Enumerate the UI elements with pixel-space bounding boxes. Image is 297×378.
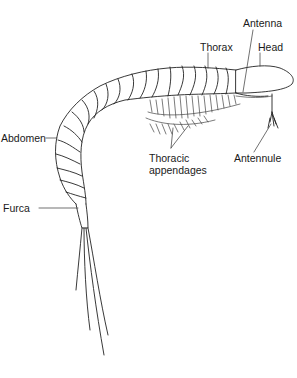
antenna-leader: [243, 30, 253, 92]
thoracic-appendages-leader-2: [171, 126, 188, 148]
antennule-shape: [268, 94, 278, 128]
label-antennule: Antennule: [234, 152, 281, 164]
antennule-leader: [254, 124, 271, 152]
head-shape: [236, 66, 293, 93]
label-thoracic-appendages: Thoracic appendages: [149, 152, 207, 176]
thoracic-appendages-leader-1: [171, 128, 173, 148]
furca-shape: [76, 204, 88, 228]
anatomy-diagram: Antenna Thorax Head Abdomen Thoracic app…: [0, 0, 297, 378]
thoracic-appendages-shape: [146, 95, 272, 134]
label-thorax: Thorax: [200, 41, 233, 53]
body-ventral-edge: [81, 93, 236, 204]
label-furca: Furca: [3, 202, 30, 214]
label-abdomen: Abdomen: [1, 132, 46, 144]
label-head: Head: [258, 41, 283, 53]
label-antenna: Antenna: [243, 17, 282, 29]
organism-drawing: [0, 0, 297, 378]
tail-setae: [76, 228, 108, 355]
body-dorsal-edge: [56, 67, 237, 204]
